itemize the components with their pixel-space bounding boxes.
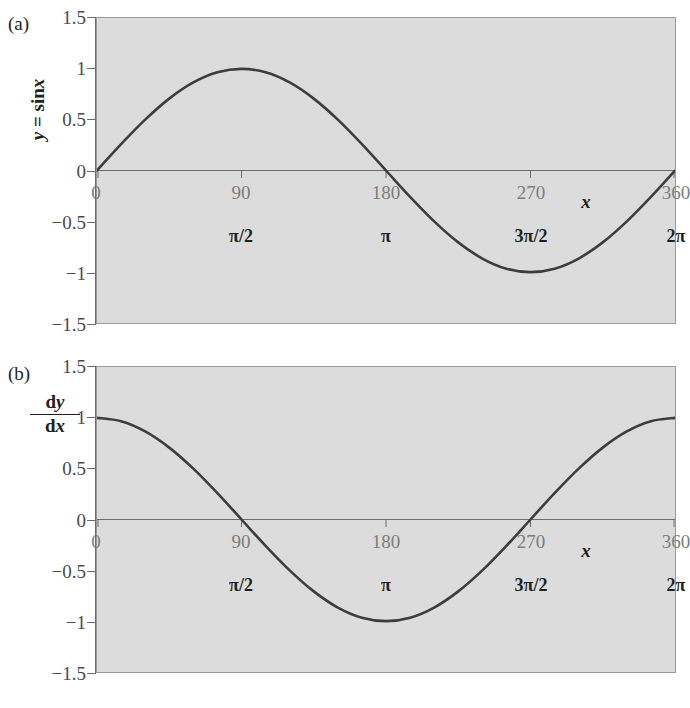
y-tick-mark <box>87 622 96 623</box>
y-tick-label: 1.5 <box>18 357 86 376</box>
y-tick-mark <box>87 17 96 18</box>
panel-a-x-axis-title: x <box>581 192 591 211</box>
y-tick-label: 0.5 <box>18 110 86 129</box>
y-tick-mark <box>87 468 96 469</box>
x-tick-label: 270 <box>517 183 546 202</box>
x-tick-label: 270 <box>517 532 546 551</box>
x-radian-label: π <box>381 227 391 245</box>
y-tick-label: 0 <box>18 511 86 530</box>
panel-a-curve-svg <box>97 18 675 323</box>
x-radian-label: 3π/2 <box>515 227 548 245</box>
x-tick-label: 360 <box>662 183 690 202</box>
x-radian-label: π/2 <box>229 576 253 594</box>
x-tick-label: 90 <box>232 532 251 551</box>
x-tick-label: 0 <box>91 183 101 202</box>
y-tick-mark <box>87 273 96 274</box>
x-radian-label: 2π <box>667 576 686 594</box>
panel-a-plot-area <box>96 17 676 324</box>
panel-b-curve-svg <box>97 367 675 672</box>
panel-a: (a) y = sinx 1.510.50−0.5−1−1.5 09018027… <box>0 0 684 354</box>
y-tick-label: −0.5 <box>18 562 86 581</box>
y-tick-mark <box>87 68 96 69</box>
panel-b-plot-area <box>96 366 676 673</box>
x-tick-label: 0 <box>91 532 101 551</box>
panel-b-x-axis-title: x <box>581 541 591 560</box>
y-tick-mark <box>87 417 96 418</box>
y-tick-label: 1 <box>18 408 86 427</box>
y-tick-mark <box>87 222 96 223</box>
y-tick-label: −1 <box>18 613 86 632</box>
y-tick-label: −1.5 <box>18 664 86 683</box>
panel-b-x-ticks <box>98 520 674 527</box>
y-tick-label: 0.5 <box>18 459 86 478</box>
x-tick-label: 360 <box>662 532 690 551</box>
y-tick-label: 1 <box>18 59 86 78</box>
x-radian-label: 3π/2 <box>515 576 548 594</box>
y-tick-mark <box>87 520 96 521</box>
x-tick-label: 180 <box>372 183 401 202</box>
y-tick-mark <box>87 324 96 325</box>
y-tick-mark <box>87 119 96 120</box>
y-tick-label: −1.5 <box>18 315 86 334</box>
y-tick-mark <box>87 571 96 572</box>
x-tick-label: 180 <box>372 532 401 551</box>
y-tick-mark <box>87 366 96 367</box>
y-tick-label: −0.5 <box>18 213 86 232</box>
x-radian-label: π <box>381 576 391 594</box>
panel-b: (b) dy dx 1.510.50−0.5−1−1.5 09018027036… <box>0 354 684 708</box>
x-radian-label: π/2 <box>229 227 253 245</box>
y-tick-label: 1.5 <box>18 8 86 27</box>
y-tick-mark <box>87 673 96 674</box>
y-tick-label: 0 <box>18 162 86 181</box>
y-tick-label: −1 <box>18 264 86 283</box>
x-tick-label: 90 <box>232 183 251 202</box>
y-tick-mark <box>87 171 96 172</box>
x-radian-label: 2π <box>667 227 686 245</box>
